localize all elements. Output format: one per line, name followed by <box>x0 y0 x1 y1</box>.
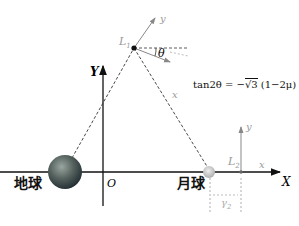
gamma-label: γ2 <box>221 198 231 211</box>
earth-icon <box>48 155 82 189</box>
l1-local-y-label: y <box>160 14 166 24</box>
x-axis-label: X <box>282 176 291 188</box>
origin-label: O <box>107 178 116 189</box>
moon-label: 月球 <box>177 176 205 190</box>
earth-label: 地球 <box>14 176 42 190</box>
l2-label: L2 <box>228 156 240 170</box>
l2-local-y-label: y <box>246 122 252 132</box>
y-axis-label: Y <box>90 66 99 78</box>
l1-point <box>131 45 136 50</box>
l1-local-x-label: x <box>172 90 178 100</box>
formula: tan2θ = −√3 (1−2μ) <box>193 80 296 90</box>
lagrange-diagram <box>0 0 299 226</box>
l2-local-x-label: x <box>259 160 265 170</box>
theta-label: θ <box>158 48 165 59</box>
l1-label: L1 <box>119 36 131 50</box>
l2-point <box>239 170 243 174</box>
